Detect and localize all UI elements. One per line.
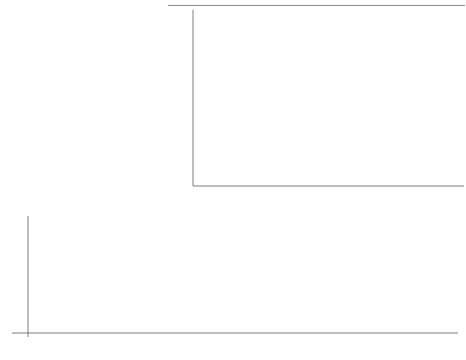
bottom-plot-svg — [2, 206, 464, 358]
bottom-full-plot — [2, 206, 464, 358]
figure-caption — [7, 13, 165, 27]
top-plot-svg — [168, 6, 466, 202]
top-plot-axes — [193, 10, 464, 186]
bottom-plot-axes — [12, 216, 458, 337]
top-detail-plot — [168, 6, 466, 202]
